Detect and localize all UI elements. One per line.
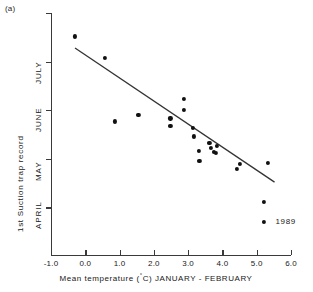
regression-line <box>51 13 291 256</box>
x-tick-label: -1.0 <box>44 259 59 268</box>
x-axis-title: Mean temperature (°C) JANUARY - FEBRUARY <box>60 272 253 283</box>
y-tick-label: JUNE <box>34 108 43 133</box>
x-tick <box>291 250 292 255</box>
x-tick-label: 4.0 <box>217 259 229 268</box>
y-tick-label: JULY <box>34 61 43 84</box>
x-tick-label: 0.0 <box>79 259 91 268</box>
x-tick-label: 3.0 <box>182 259 194 268</box>
y-axis-title: 1st Suction trap record <box>16 135 25 232</box>
panel-label: (a) <box>5 4 15 13</box>
x-tick-label: 6.0 <box>285 259 297 268</box>
x-tick-label: 2.0 <box>148 259 160 268</box>
y-tick-label: APRIL <box>34 202 43 230</box>
point-annotation-1989: 1989 <box>276 217 296 226</box>
x-tick-label: 5.0 <box>251 259 263 268</box>
y-tick-label: MAY <box>34 161 43 180</box>
x-tick-label: 1.0 <box>114 259 126 268</box>
